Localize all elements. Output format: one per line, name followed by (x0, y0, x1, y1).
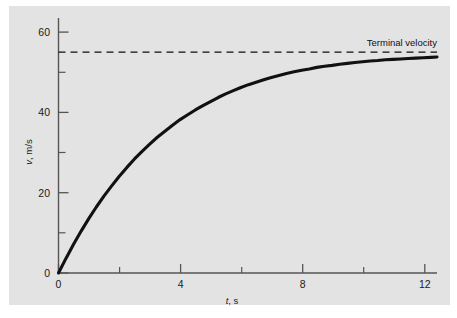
svg-text:v, m/s: v, m/s (23, 139, 34, 165)
y-tick-label-60: 60 (38, 26, 50, 38)
figure-container: 60 40 20 0 0 4 8 12 t, s v, m/s Terminal… (0, 0, 457, 318)
x-axis-minor-ticks (120, 267, 364, 273)
x-tick-label-12: 12 (419, 278, 431, 290)
x-tick-label-0: 0 (56, 278, 62, 290)
terminal-velocity-label: Terminal velocity (367, 37, 437, 48)
y-tick-label-40: 40 (38, 106, 50, 118)
velocity-curve (59, 57, 438, 273)
chart-svg: 60 40 20 0 0 4 8 12 t, s v, m/s Terminal… (0, 0, 457, 318)
x-axis-title-unit: , s (228, 295, 238, 306)
y-tick-label-20: 20 (38, 187, 50, 199)
y-axis-title-unit: , m/s (23, 139, 34, 160)
y-axis-minor-ticks (59, 72, 66, 233)
y-tick-label-0: 0 (44, 267, 50, 279)
x-tick-label-8: 8 (300, 278, 306, 290)
x-tick-label-4: 4 (178, 278, 184, 290)
svg-text:t, s: t, s (226, 295, 239, 306)
y-axis-title: v, m/s (23, 139, 34, 165)
x-axis-title: t, s (226, 295, 239, 306)
